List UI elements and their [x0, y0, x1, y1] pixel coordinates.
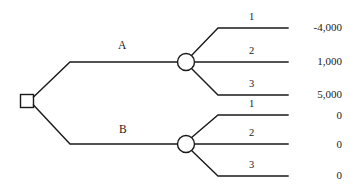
branch-line-option-a [34, 62, 179, 97]
payoff-b-outcome-1: 0 [290, 110, 342, 121]
branch-line-a-outcome-3 [191, 68, 288, 95]
branch-line-option-b [34, 105, 179, 144]
branch-label-b-outcome-3: 3 [249, 160, 254, 171]
decision-node-square [21, 95, 34, 108]
payoff-a-outcome-1: -4,000 [290, 22, 342, 33]
option-label-b: B [119, 124, 127, 136]
branch-line-b-outcome-3 [191, 150, 288, 176]
payoff-a-outcome-3: 5,000 [290, 89, 342, 100]
payoff-b-outcome-2: 0 [290, 139, 342, 150]
chance-node-a-circle [178, 54, 195, 71]
branch-line-a-outcome-1 [191, 28, 288, 56]
branch-label-a-outcome-3: 3 [249, 79, 254, 90]
branch-label-a-outcome-1: 1 [249, 12, 254, 23]
chance-node-b-circle [178, 136, 195, 153]
branch-label-a-outcome-2: 2 [249, 46, 254, 57]
decision-tree-figure: A B 1 2 3 1 2 3 -4,000 1,000 5,000 0 0 0 [0, 0, 359, 188]
payoff-a-outcome-2: 1,000 [290, 56, 342, 67]
payoff-b-outcome-3: 0 [290, 170, 342, 181]
branch-label-b-outcome-1: 1 [249, 99, 254, 110]
branch-label-b-outcome-2: 2 [249, 128, 254, 139]
branch-line-b-outcome-1 [191, 115, 288, 138]
option-label-a: A [118, 40, 126, 52]
